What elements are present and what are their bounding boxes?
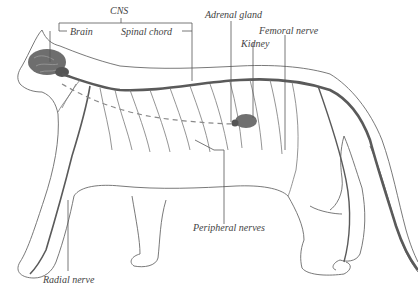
peripheral-nerve-branches — [30, 80, 350, 274]
label-peripheral-nerves: Peripheral nerves — [193, 222, 265, 233]
diagram-drawing — [0, 0, 418, 295]
label-cns: CNS — [110, 5, 128, 16]
label-radial-nerve: Radial nerve — [43, 274, 94, 285]
label-kidney: Kidney — [241, 38, 269, 49]
brain-shape — [28, 49, 69, 77]
cat-nervous-system-diagram: CNS Brain Spinal chord Adrenal gland Kid… — [0, 0, 418, 295]
adrenal-gland-shape — [232, 120, 239, 127]
label-brain: Brain — [70, 26, 93, 37]
cat-outline — [18, 30, 418, 278]
spinal-cord — [62, 74, 418, 270]
label-femoral-nerve: Femoral nerve — [259, 25, 318, 36]
kidney-shape — [235, 114, 257, 128]
label-spinal-chord: Spinal chord — [121, 26, 172, 37]
label-adrenal-gland: Adrenal gland — [205, 9, 262, 20]
